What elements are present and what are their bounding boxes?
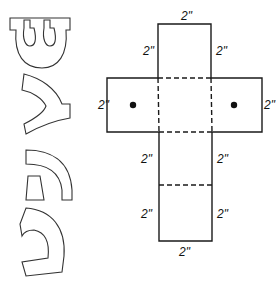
dim-label-lower-left-2: 2" bbox=[141, 208, 152, 220]
letter-gimel-icon bbox=[22, 74, 70, 134]
box-net bbox=[107, 24, 262, 241]
fold-lines bbox=[158, 78, 212, 185]
diagram-canvas bbox=[0, 0, 278, 282]
hole-left-icon bbox=[130, 102, 136, 108]
letter-nun-icon bbox=[20, 208, 64, 276]
dim-label-upper-left: 2" bbox=[143, 45, 154, 57]
dim-label-left-arm: 2" bbox=[98, 99, 109, 111]
letter-cutouts bbox=[10, 18, 72, 276]
fold-line-left bbox=[158, 78, 159, 132]
letter-shin-icon bbox=[10, 18, 70, 68]
letter-hei-icon bbox=[26, 150, 72, 200]
fold-line-right bbox=[211, 78, 212, 132]
dim-label-bottom: 2" bbox=[179, 246, 190, 258]
dim-label-top: 2" bbox=[181, 10, 192, 22]
hole-right-icon bbox=[231, 102, 237, 108]
dim-label-upper-right: 2" bbox=[216, 45, 227, 57]
dim-label-lower-right-2: 2" bbox=[217, 208, 228, 220]
dim-label-lower-left-1: 2" bbox=[141, 153, 152, 165]
dim-label-right-arm: 2" bbox=[264, 99, 275, 111]
dim-label-lower-right-1: 2" bbox=[217, 153, 228, 165]
